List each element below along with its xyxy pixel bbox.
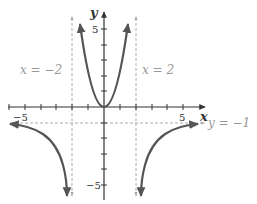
y-tick-label-neg5: −5 xyxy=(86,180,101,191)
asymptote-label-y-neg1: y = −1 xyxy=(207,116,250,130)
x-tick-label-neg5: −5 xyxy=(13,112,28,123)
x-axis-label: x xyxy=(199,109,208,124)
asymptote-label-x-2: x = 2 xyxy=(142,63,174,77)
asymptote-label-x-neg2: x = −2 xyxy=(20,63,62,77)
left-branch-curve xyxy=(10,124,67,196)
labels: y x 5 −5 −5 5 x = −2 x = 2 y = −1 xyxy=(13,5,250,191)
rational-function-graph: y x 5 −5 −5 5 x = −2 x = 2 y = −1 xyxy=(0,0,257,204)
y-axis-label: y xyxy=(89,5,99,20)
x-tick-label-5: 5 xyxy=(179,112,185,123)
right-branch-curve xyxy=(141,124,198,196)
y-tick-label-5: 5 xyxy=(92,24,98,35)
